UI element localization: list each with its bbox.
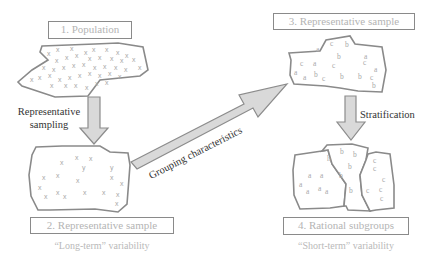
svg-text:b: b	[372, 81, 376, 90]
svg-text:x: x	[56, 172, 60, 179]
svg-text:x: x	[42, 174, 46, 181]
node-label-population: 1. Population	[48, 21, 132, 39]
svg-text:x: x	[98, 72, 102, 79]
svg-text:x: x	[108, 70, 112, 77]
svg-text:b: b	[340, 72, 344, 81]
svg-text:x: x	[95, 80, 99, 87]
svg-text:x: x	[65, 54, 69, 61]
svg-text:x: x	[50, 82, 54, 89]
svg-text:x: x	[114, 64, 118, 71]
node-label-representative-sample-grouped: 3. Representative sample	[273, 13, 415, 30]
svg-text:x: x	[52, 66, 56, 73]
edge-label-line-1: Representative	[14, 105, 84, 118]
svg-text:b: b	[353, 150, 357, 159]
svg-text:x: x	[118, 73, 122, 80]
svg-text:y: y	[82, 164, 86, 172]
svg-text:x: x	[68, 74, 72, 81]
svg-text:x: x	[78, 72, 82, 79]
population-blob	[18, 43, 148, 97]
svg-text:x: x	[56, 189, 60, 196]
svg-text:x: x	[70, 45, 74, 52]
svg-text:x: x	[115, 200, 119, 207]
svg-text:x: x	[93, 64, 97, 71]
svg-text:x: x	[88, 70, 92, 77]
svg-text:x: x	[76, 177, 80, 184]
svg-text:x: x	[58, 76, 62, 83]
svg-text:x: x	[72, 62, 76, 69]
caption-long-term-variability: “Long-term” variability	[30, 240, 174, 251]
edge-label-stratification: Stratification	[360, 108, 415, 121]
svg-text:x: x	[105, 46, 109, 53]
svg-text:x: x	[62, 64, 66, 71]
svg-text:x: x	[47, 50, 51, 57]
edge-label-line-2: sampling	[14, 118, 84, 131]
edge-label-representative-sampling: Representative sampling	[14, 105, 84, 131]
svg-text:b: b	[339, 171, 343, 180]
arrow-representative-sampling	[80, 97, 108, 144]
svg-text:x: x	[83, 189, 87, 196]
svg-text:x: x	[89, 155, 93, 162]
svg-text:x: x	[74, 82, 78, 89]
svg-text:x: x	[42, 64, 46, 71]
svg-text:b: b	[348, 162, 352, 171]
svg-text:x: x	[120, 57, 124, 64]
subgroup-c-blob	[360, 152, 394, 211]
svg-text:x: x	[102, 189, 106, 196]
svg-text:x: x	[64, 82, 68, 89]
svg-text:x: x	[116, 191, 120, 198]
svg-text:x: x	[30, 76, 34, 83]
svg-text:x: x	[82, 61, 86, 68]
svg-text:x: x	[110, 55, 114, 62]
svg-text:b: b	[314, 70, 318, 79]
svg-text:x: x	[85, 84, 89, 91]
svg-text:x: x	[103, 63, 107, 70]
svg-text:x: x	[56, 46, 60, 53]
svg-text:x: x	[75, 52, 79, 59]
svg-text:x: x	[88, 55, 92, 62]
svg-text:x: x	[98, 54, 102, 61]
svg-text:x: x	[132, 56, 136, 63]
svg-text:x: x	[116, 49, 120, 56]
svg-text:b: b	[358, 72, 362, 81]
svg-text:x: x	[44, 193, 48, 200]
svg-text:x: x	[55, 57, 59, 64]
svg-text:x: x	[120, 180, 124, 187]
diagram-canvas: xxx xxx xxx xxx xxx xx xxx xxx xxx xxx x…	[0, 0, 428, 259]
svg-text:x: x	[38, 184, 42, 191]
svg-text:x: x	[38, 74, 42, 81]
svg-text:x: x	[125, 52, 129, 59]
svg-text:x: x	[75, 154, 79, 161]
svg-text:x: x	[92, 46, 96, 53]
svg-text:x: x	[60, 159, 64, 166]
svg-text:x: x	[48, 72, 52, 79]
svg-text:b: b	[349, 186, 353, 195]
svg-text:x: x	[63, 193, 67, 200]
node-label-representative-sample-long: 2. Representative sample	[30, 217, 174, 234]
svg-text:b: b	[345, 40, 349, 49]
svg-text:x: x	[138, 64, 142, 71]
arrow-grouping-characteristics	[131, 84, 287, 169]
svg-text:x: x	[105, 79, 109, 86]
svg-text:x: x	[124, 66, 128, 73]
svg-text:x: x	[110, 174, 114, 181]
svg-text:b: b	[340, 147, 344, 156]
node-label-rational-subgroups: 4. Rational subgroups	[283, 217, 409, 235]
svg-text:y: y	[110, 164, 114, 172]
caption-short-term-variability: “Short-term” variability	[283, 240, 409, 251]
svg-text:b: b	[337, 52, 341, 61]
svg-text:h: h	[327, 154, 331, 163]
